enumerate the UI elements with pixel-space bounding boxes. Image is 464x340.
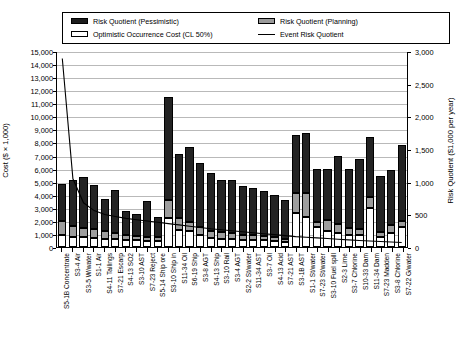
bar-slot[interactable]	[269, 52, 280, 247]
x-axis-label: S1-1 St/water	[301, 253, 312, 339]
stacked-bar[interactable]	[196, 163, 204, 247]
bar-slot[interactable]	[110, 52, 121, 247]
x-axis-label: S3-10 Rail	[216, 253, 227, 339]
y-axis-left-tick-label: 5,000	[35, 178, 54, 187]
stacked-bar[interactable]	[366, 137, 374, 247]
chart-legend: Risk Quotient (Pessimistic) Risk Quotien…	[62, 12, 450, 44]
stacked-bar[interactable]	[249, 188, 257, 247]
stacked-bar[interactable]	[79, 177, 87, 247]
bar-segment	[185, 222, 193, 231]
y-axis-right-tick-label: 2,500	[415, 80, 434, 89]
bar-slot[interactable]	[184, 52, 195, 247]
x-axis-label: S7-23 St/water	[312, 253, 323, 339]
bar-segment	[334, 156, 342, 224]
stacked-bar[interactable]	[387, 170, 395, 247]
bar-segment	[58, 184, 66, 221]
stacked-bar[interactable]	[313, 169, 321, 247]
stacked-bar[interactable]	[228, 180, 236, 247]
x-axis-label: S3-7 Oil	[259, 253, 270, 339]
bar-segment	[79, 177, 87, 228]
stacked-bar[interactable]	[239, 186, 247, 247]
bar-segment	[270, 195, 278, 237]
bar-slot[interactable]	[280, 52, 291, 247]
stacked-bar[interactable]	[122, 211, 130, 247]
bar-slot[interactable]	[142, 52, 153, 247]
bar-slot[interactable]	[301, 52, 312, 247]
stacked-bar[interactable]	[90, 185, 98, 247]
stacked-bar[interactable]	[398, 145, 406, 247]
stacked-bar[interactable]	[132, 214, 140, 247]
x-axis-label: S2-2 St/water	[237, 253, 248, 339]
bar-slot[interactable]	[227, 52, 238, 247]
bar-slot[interactable]	[99, 52, 110, 247]
x-axis-label: S7-22 G/water	[398, 253, 409, 339]
bar-slot[interactable]	[248, 52, 259, 247]
stacked-bar[interactable]	[207, 173, 215, 247]
x-axis-label: S3-10 Fuel spill	[323, 253, 334, 339]
bar-slot[interactable]	[152, 52, 163, 247]
stacked-bar[interactable]	[260, 191, 268, 247]
bar-slot[interactable]	[195, 52, 206, 247]
bar-slot[interactable]	[343, 52, 354, 247]
bar-slot[interactable]	[365, 52, 376, 247]
stacked-bar[interactable]	[323, 169, 331, 247]
stacked-bar[interactable]	[101, 199, 109, 247]
bar-slot[interactable]	[322, 52, 333, 247]
bar-slot[interactable]	[57, 52, 68, 247]
bar-slot[interactable]	[386, 52, 397, 247]
stacked-bar[interactable]	[58, 184, 66, 247]
y-axis-right-tick-label: 3,000	[415, 48, 434, 57]
stacked-bar[interactable]	[292, 135, 300, 247]
stacked-bar[interactable]	[334, 156, 342, 247]
bar-slot[interactable]	[237, 52, 248, 247]
y-axis-left-tick-label: 1,000	[35, 230, 54, 239]
bar-segment	[323, 231, 331, 247]
bar-slot[interactable]	[131, 52, 142, 247]
stacked-bar[interactable]	[111, 190, 119, 247]
stacked-bar[interactable]	[302, 133, 310, 247]
stacked-bar[interactable]	[217, 180, 225, 247]
bar-slot[interactable]	[68, 52, 79, 247]
bar-slot[interactable]	[259, 52, 270, 247]
bar-segment	[302, 133, 310, 193]
bar-slot[interactable]	[163, 52, 174, 247]
bar-segment	[345, 169, 353, 228]
stacked-bar[interactable]	[164, 97, 172, 247]
stacked-bar[interactable]	[154, 217, 162, 247]
bar-slot[interactable]	[174, 52, 185, 247]
x-axis-labels: S5-1B ConcentrateS3-4 AirS3-5 W/waterS1-…	[56, 253, 408, 339]
bar-segment	[313, 227, 321, 247]
bar-segment	[69, 237, 77, 247]
bar-slot[interactable]	[216, 52, 227, 247]
stacked-bar[interactable]	[185, 147, 193, 247]
stacked-bar[interactable]	[143, 201, 151, 247]
bar-segment	[355, 235, 363, 247]
planning-swatch-icon	[258, 18, 275, 24]
bar-segment	[207, 238, 215, 247]
legend-label-pessimistic: Risk Quotient (Pessimistic)	[93, 18, 179, 25]
bar-segment	[249, 240, 257, 247]
bar-slot[interactable]	[312, 52, 323, 247]
bar-slot[interactable]	[206, 52, 217, 247]
bar-segment	[292, 135, 300, 194]
stacked-bar[interactable]	[270, 195, 278, 247]
bar-slot[interactable]	[354, 52, 365, 247]
bar-slot[interactable]	[121, 52, 132, 247]
bar-slot[interactable]	[375, 52, 386, 247]
stacked-bar[interactable]	[281, 200, 289, 247]
bar-slot[interactable]	[290, 52, 301, 247]
bar-slot[interactable]	[89, 52, 100, 247]
stacked-bar[interactable]	[69, 180, 77, 247]
legend-item-optimistic: Optimistic Occurrence Cost (CL 50%)	[71, 31, 258, 38]
stacked-bar[interactable]	[175, 154, 183, 247]
stacked-bar[interactable]	[376, 176, 384, 247]
bar-slot[interactable]	[333, 52, 344, 247]
stacked-bar[interactable]	[355, 159, 363, 247]
bar-segment	[79, 237, 87, 247]
bar-segment	[164, 200, 172, 218]
y-axis-left-tick-label: 2,000	[35, 217, 54, 226]
bar-slot[interactable]	[78, 52, 89, 247]
line-swatch-icon	[258, 34, 275, 35]
bar-slot[interactable]	[397, 52, 408, 247]
stacked-bar[interactable]	[345, 169, 353, 247]
